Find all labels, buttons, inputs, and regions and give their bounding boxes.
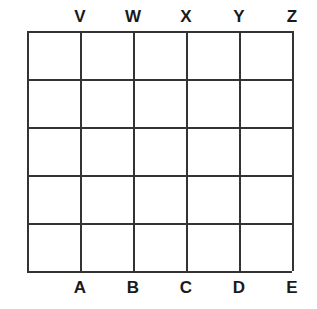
grid-cell (80, 127, 133, 175)
top-label-z: Z (277, 8, 307, 25)
grid-cell (239, 127, 292, 175)
top-label-y: Y (224, 8, 254, 25)
grid-cell (239, 79, 292, 127)
grid-cell (133, 223, 186, 271)
grid-cell (133, 127, 186, 175)
grid-cell (239, 31, 292, 79)
grid-cell (27, 175, 80, 223)
grid-cell (80, 223, 133, 271)
grid-cell (239, 175, 292, 223)
grid-container (27, 31, 292, 271)
grid-cell (133, 31, 186, 79)
top-label-v: V (65, 8, 95, 25)
grid-cell (80, 31, 133, 79)
grid-cell (27, 31, 80, 79)
grid-cell (80, 79, 133, 127)
bottom-label-a: A (65, 279, 95, 296)
grid-cell (27, 127, 80, 175)
grid-horizontal-line-5 (27, 271, 292, 273)
grid-cell (80, 175, 133, 223)
grid-cell (133, 175, 186, 223)
grid-cell (133, 79, 186, 127)
bottom-label-c: C (171, 279, 201, 296)
bottom-label-e: E (277, 279, 307, 296)
grid-cell (186, 175, 239, 223)
top-label-w: W (118, 8, 148, 25)
bottom-label-b: B (118, 279, 148, 296)
grid-cell (239, 223, 292, 271)
grid-cell (27, 223, 80, 271)
grid-cell (186, 127, 239, 175)
top-label-x: X (171, 8, 201, 25)
grid-figure: VWXYZABCDE (0, 0, 317, 309)
grid-cell (186, 79, 239, 127)
grid-cell (27, 79, 80, 127)
grid-cell (186, 223, 239, 271)
grid-cell (186, 31, 239, 79)
bottom-label-d: D (224, 279, 254, 296)
grid-vertical-line-5 (292, 31, 294, 271)
